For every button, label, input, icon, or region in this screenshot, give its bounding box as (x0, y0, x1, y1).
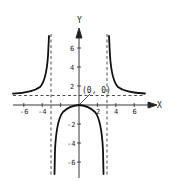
x-tick-labels: -6 -4 2 4 6 (20, 108, 137, 116)
axes (13, 28, 157, 178)
y-tick-label: 6 (70, 45, 74, 53)
x-axis-title: X (157, 101, 162, 110)
x-tick-label: -6 (20, 108, 28, 116)
y-tick-label: 4 (70, 64, 74, 72)
x-tick-label: 6 (133, 108, 137, 116)
origin-annotation: (0, 0) (82, 86, 111, 95)
x-axis-arrow-icon (148, 102, 157, 108)
x-tick-label: 4 (114, 108, 118, 116)
function-graph: -6 -4 2 4 6 6 4 2 -2 -4 -6 X Y (0, 0) (0, 0, 169, 181)
y-axis-title: Y (77, 16, 82, 25)
y-axis-arrow-icon (76, 28, 82, 38)
y-tick-label: -2 (67, 121, 75, 129)
curve-right-branch (109, 36, 145, 94)
y-tick-label: -6 (67, 159, 75, 167)
y-tick-label: -4 (67, 140, 75, 148)
curve-left-branch (13, 36, 49, 94)
x-tick-label: -4 (38, 108, 46, 116)
y-tick-label: 2 (70, 83, 74, 91)
